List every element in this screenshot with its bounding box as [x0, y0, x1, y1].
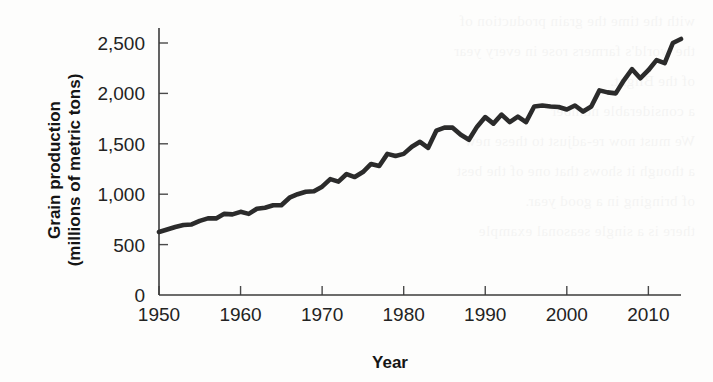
y-tick-label: 1,500	[97, 134, 145, 155]
x-tick-label: 2010	[627, 304, 669, 325]
x-tick-labels: 1950196019701980199020002010	[138, 304, 670, 325]
y-axis-title-line2: (millions of metric tons)	[65, 74, 84, 267]
y-tick-label: 0	[134, 285, 145, 306]
y-tick-label: 2,000	[97, 83, 145, 104]
x-tick-label: 1990	[464, 304, 506, 325]
y-tick-label: 1,000	[97, 184, 145, 205]
x-tick-label: 1950	[138, 304, 180, 325]
grain-production-line	[159, 39, 681, 232]
x-tick-label: 1960	[219, 304, 261, 325]
x-tick-label: 2000	[546, 304, 588, 325]
y-tick-label: 2,500	[97, 33, 145, 54]
x-tick-label: 1980	[383, 304, 425, 325]
line-chart: 05001,0001,5002,0002,500 195019601970198…	[0, 0, 713, 382]
y-tick-label: 500	[113, 235, 145, 256]
x-axis-title: Year	[372, 353, 408, 372]
y-axis-title-line1: Grain production	[45, 101, 64, 239]
y-axis-ticks	[159, 43, 168, 245]
y-tick-labels: 05001,0001,5002,0002,500	[97, 33, 145, 306]
chart-figure: with the time the grain production of th…	[0, 0, 713, 382]
x-tick-label: 1970	[301, 304, 343, 325]
x-axis-ticks	[159, 286, 648, 295]
